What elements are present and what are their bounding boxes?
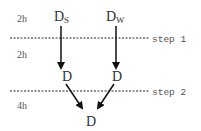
node-ds: D S xyxy=(54,9,69,25)
node-dw: D W xyxy=(106,9,125,25)
node-ds-main: D xyxy=(54,9,64,24)
step-2-label: step 2 xyxy=(152,87,187,98)
node-ds-sub: S xyxy=(64,15,69,25)
bottom-node: D xyxy=(86,114,96,129)
mid-node-right: D xyxy=(112,69,122,84)
node-dw-main: D xyxy=(106,9,116,24)
node-dw-sub: W xyxy=(116,15,125,25)
time-label-3: 4h xyxy=(17,100,27,111)
timeline-diagram: 2h 2h 4h step 1 step 2 D S D W D D D xyxy=(0,0,201,131)
mid-node-left: D xyxy=(62,69,72,84)
arrow-right-to-bottom xyxy=(98,84,114,108)
time-label-2: 2h xyxy=(17,49,27,60)
time-label-1: 2h xyxy=(17,13,27,24)
arrow-left-to-bottom xyxy=(66,84,82,108)
step-1-label: step 1 xyxy=(152,34,187,45)
